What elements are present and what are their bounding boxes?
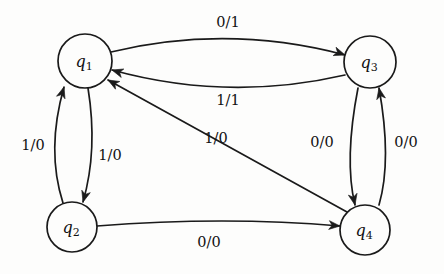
state-node-q3[interactable]: q3 <box>344 36 396 88</box>
transition-q3-to-q4 <box>348 88 359 206</box>
transition-label-t5: 1/0 <box>204 130 227 146</box>
transition-edge <box>97 221 340 226</box>
transition-edge <box>112 70 345 87</box>
transition-label-t1: 0/1 <box>216 14 239 30</box>
state-node-q1[interactable]: q1 <box>58 34 112 88</box>
transition-q2-to-q4 <box>97 221 340 231</box>
state-label-subscript: 2 <box>73 226 80 239</box>
transition-q1-to-q3 <box>111 39 346 59</box>
transition-label-t7: 0/0 <box>394 134 417 150</box>
state-node-q2[interactable]: q2 <box>47 202 97 252</box>
transition-q3-to-q1 <box>111 66 345 88</box>
state-label-subscript: 1 <box>86 60 93 73</box>
transition-edge <box>83 88 92 202</box>
transition-edge <box>111 39 345 55</box>
state-label-base: q <box>75 52 85 71</box>
state-node-q4[interactable]: q4 <box>340 205 390 255</box>
arrowhead-icon <box>111 66 124 78</box>
transition-edge <box>379 88 386 205</box>
state-label-base: q <box>62 218 72 237</box>
fsm-canvas: q1q3q2q4 0/11/11/01/01/00/00/00/0 <box>0 0 444 274</box>
arrowhead-icon <box>79 190 90 203</box>
transition-q4-to-q3 <box>375 87 386 205</box>
arrowhead-icon <box>348 193 359 206</box>
transition-label-t2: 1/1 <box>216 92 239 108</box>
transition-edge <box>55 87 64 203</box>
transition-q1-to-q2 <box>79 88 92 203</box>
fsm-diagram: q1q3q2q4 0/11/11/01/01/00/00/00/0 <box>0 0 444 274</box>
transition-label-t6: 0/0 <box>310 134 333 150</box>
arrowhead-icon <box>106 76 120 89</box>
state-label-base: q <box>360 53 370 72</box>
state-label-subscript: 4 <box>366 229 373 242</box>
transition-label-t8: 0/0 <box>197 234 220 250</box>
transition-q2-to-q1 <box>55 86 68 203</box>
transition-edge <box>350 88 358 205</box>
state-label-subscript: 3 <box>371 61 378 74</box>
state-label-base: q <box>355 221 365 240</box>
transition-label-t4: 1/0 <box>98 147 121 163</box>
arrowhead-icon <box>57 86 69 99</box>
transition-label-t3: 1/0 <box>21 137 44 153</box>
